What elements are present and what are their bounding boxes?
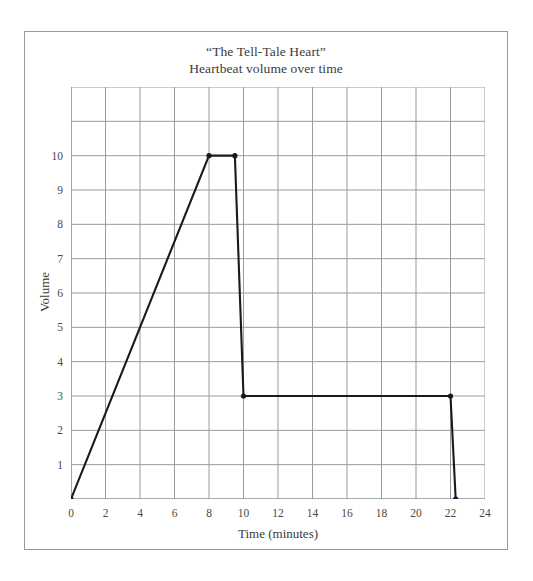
x-tick-label: 22 bbox=[445, 507, 457, 519]
x-tick-label: 16 bbox=[341, 507, 353, 519]
data-point-markers bbox=[71, 153, 458, 499]
y-axis-title: Volume bbox=[37, 247, 53, 337]
y-tick-label: 3 bbox=[39, 390, 63, 402]
x-tick-label: 20 bbox=[410, 507, 422, 519]
x-tick-label: 10 bbox=[238, 507, 250, 519]
y-tick-label: 8 bbox=[39, 218, 63, 230]
line-chart-svg bbox=[71, 87, 485, 499]
x-tick-label: 8 bbox=[206, 507, 212, 519]
x-tick-label: 0 bbox=[68, 507, 74, 519]
x-tick-label: 4 bbox=[137, 507, 143, 519]
x-tick-label: 14 bbox=[307, 507, 319, 519]
y-tick-label: 10 bbox=[39, 150, 63, 162]
y-tick-label: 2 bbox=[39, 424, 63, 436]
x-tick-label: 18 bbox=[376, 507, 388, 519]
x-tick-label: 6 bbox=[172, 507, 178, 519]
x-axis-title: Time (minutes) bbox=[71, 526, 485, 542]
x-tick-label: 12 bbox=[272, 507, 284, 519]
chart-title-block: “The Tell-Tale Heart” Heartbeat volume o… bbox=[25, 44, 507, 78]
y-tick-label: 4 bbox=[39, 356, 63, 368]
y-tick-label: 1 bbox=[39, 459, 63, 471]
plot-area bbox=[71, 87, 485, 499]
y-tick-label: 9 bbox=[39, 184, 63, 196]
chart-title: “The Tell-Tale Heart” bbox=[25, 44, 507, 61]
chart-subtitle: Heartbeat volume over time bbox=[25, 61, 507, 78]
x-tick-label: 2 bbox=[103, 507, 109, 519]
x-tick-label: 24 bbox=[479, 507, 491, 519]
